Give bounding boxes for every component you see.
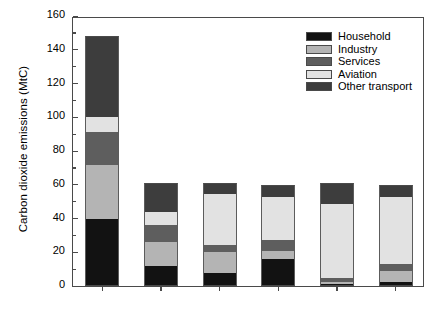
legend-swatch-icon: [306, 82, 332, 91]
bar-pink: [379, 185, 413, 286]
legend-label: Other transport: [338, 81, 412, 92]
bar-segment-baseline-other-transport: [85, 36, 119, 117]
y-tick-mark: [73, 167, 76, 168]
y-tick-mark: [73, 83, 78, 84]
legend-item-services: Services: [306, 56, 412, 67]
legend-label: Aviation: [338, 69, 377, 80]
legend-item-industry: Industry: [306, 44, 412, 55]
bar-segment-baseline-industry: [85, 165, 119, 218]
bar-segment-turquoise-aviation: [261, 197, 295, 240]
bar-blue: [203, 183, 237, 286]
y-tick-label: 120: [47, 76, 65, 88]
bar-segment-pink-household: [379, 282, 413, 286]
bar-segment-turquoise-services: [261, 240, 295, 252]
co2-emissions-stacked-bar-chart: Carbon dioxide emissions (MtC) 020406080…: [0, 0, 438, 324]
legend-label: Industry: [338, 44, 377, 55]
bar-segment-blue-industry: [203, 252, 237, 272]
legend-label: Household: [338, 31, 391, 42]
x-tick-mark: [102, 286, 103, 291]
bar-segment-turquoise-industry: [261, 251, 295, 259]
x-tick-mark: [160, 286, 161, 291]
bar-segment-purple-aviation: [320, 204, 354, 278]
legend: HouseholdIndustryServicesAviationOther t…: [306, 31, 412, 92]
bar-segment-pink-other-transport: [379, 185, 413, 198]
bar-segment-blue-other-transport: [203, 183, 237, 194]
bar-segment-baseline-aviation: [85, 117, 119, 132]
y-tick-label: 140: [47, 42, 65, 54]
y-tick-mark: [73, 218, 78, 219]
bar-segment-pink-services: [379, 264, 413, 271]
legend-swatch-icon: [306, 70, 332, 79]
x-tick-mark: [336, 286, 337, 291]
y-tick-label: 80: [53, 143, 65, 155]
bar-segment-turquoise-household: [261, 259, 295, 286]
y-tick-label: 40: [53, 211, 65, 223]
y-tick-mark: [73, 49, 78, 50]
x-tick-mark: [395, 286, 396, 291]
y-tick-label: 100: [47, 109, 65, 121]
y-tick-mark: [73, 235, 76, 236]
y-tick-mark: [73, 16, 78, 17]
bar-segment-blue-household: [203, 273, 237, 287]
legend-label: Services: [338, 56, 380, 67]
y-tick-label: 160: [47, 8, 65, 20]
y-tick-mark: [73, 252, 78, 253]
bar-segment-blue-services: [203, 245, 237, 253]
bar-segment-red-aviation: [144, 212, 178, 226]
bar-segment-red-industry: [144, 242, 178, 266]
legend-item-aviation: Aviation: [306, 69, 412, 80]
y-tick-label: 60: [53, 177, 65, 189]
bar-segment-purple-other-transport: [320, 183, 354, 204]
bar-segment-red-household: [144, 266, 178, 286]
bar-red: [144, 183, 178, 286]
bar-segment-pink-aviation: [379, 197, 413, 264]
y-axis-title: Carbon dioxide emissions (MtC): [17, 29, 29, 269]
legend-swatch-icon: [306, 32, 332, 41]
bar-baseline: [85, 36, 119, 286]
y-tick-mark: [73, 100, 76, 101]
bar-purple: [320, 183, 354, 286]
legend-swatch-icon: [306, 57, 332, 66]
x-tick-mark: [219, 286, 220, 291]
bar-segment-turquoise-other-transport: [261, 185, 295, 197]
y-tick-mark: [73, 286, 78, 287]
bar-turquoise: [261, 185, 295, 286]
bar-segment-baseline-services: [85, 132, 119, 165]
y-tick-mark: [73, 66, 76, 67]
y-tick-mark: [73, 184, 78, 185]
bar-segment-baseline-household: [85, 219, 119, 287]
y-tick-mark: [73, 117, 78, 118]
bar-segment-purple-household: [320, 284, 354, 286]
bar-segment-blue-aviation: [203, 194, 237, 245]
bar-segment-red-other-transport: [144, 183, 178, 212]
bar-segment-purple-services: [320, 278, 354, 281]
bar-segment-pink-industry: [379, 271, 413, 282]
y-tick-label: 20: [53, 244, 65, 256]
legend-swatch-icon: [306, 45, 332, 54]
y-tick-label: 0: [59, 278, 65, 290]
y-tick-mark: [73, 32, 76, 33]
y-tick-mark: [73, 269, 76, 270]
x-tick-mark: [278, 286, 279, 291]
legend-item-household: Household: [306, 31, 412, 42]
bar-segment-red-services: [144, 225, 178, 242]
y-tick-mark: [73, 134, 76, 135]
y-tick-mark: [73, 201, 76, 202]
y-tick-mark: [73, 151, 78, 152]
bar-segment-purple-industry: [320, 282, 354, 285]
legend-item-other-transport: Other transport: [306, 81, 412, 92]
